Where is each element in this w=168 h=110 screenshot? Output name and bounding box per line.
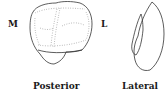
posterior-facet-dots — [35, 8, 89, 48]
medial-side-label: M — [8, 20, 18, 29]
lateral-patella-outline — [132, 2, 164, 71]
lateral-side-label: L — [101, 20, 107, 29]
lateral-caption: Lateral — [122, 82, 158, 91]
posterior-caption: Posterior — [33, 82, 79, 91]
posterior-view-drawing — [0, 0, 168, 110]
